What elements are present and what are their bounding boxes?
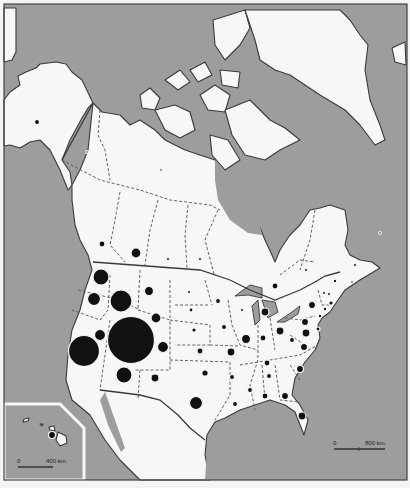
symbol-british-columbia bbox=[99, 241, 105, 247]
symbol-west-virginia bbox=[290, 338, 295, 343]
symbol-alabama bbox=[262, 393, 268, 399]
symbol-saskatchewan bbox=[167, 258, 170, 261]
symbol-labrador bbox=[354, 264, 357, 267]
symbol-minnesota bbox=[216, 299, 221, 304]
symbol-new-hampshire bbox=[328, 293, 331, 296]
symbol-washington bbox=[93, 269, 109, 285]
symbol-yukon bbox=[86, 151, 89, 154]
symbol-idaho bbox=[110, 290, 132, 312]
symbol-alaska bbox=[35, 120, 40, 125]
symbol-oklahoma bbox=[202, 370, 208, 376]
symbol-maine bbox=[333, 279, 337, 283]
symbol-virginia bbox=[302, 329, 310, 337]
symbol-wyoming bbox=[151, 313, 161, 323]
hawaii-inset: 0 400 km. bbox=[4, 404, 84, 480]
symbol-georgia bbox=[282, 393, 289, 400]
symbol-south-dakota bbox=[189, 308, 193, 312]
symbol-tennessee bbox=[267, 374, 272, 379]
symbol-kentucky bbox=[264, 360, 270, 366]
north-america-map: 0 400 km. 0 800 km. bbox=[0, 0, 410, 488]
symbol-texas bbox=[190, 397, 203, 410]
symbol-arizona bbox=[116, 367, 132, 383]
symbol-quebec bbox=[305, 269, 308, 272]
symbol-ontario bbox=[272, 283, 278, 289]
symbol-northwest-territories bbox=[160, 169, 163, 172]
inset-scale-end: 400 km. bbox=[46, 458, 68, 464]
symbol-louisiana bbox=[233, 402, 238, 407]
symbol-pennsylvania bbox=[302, 319, 309, 326]
symbol-connecticut bbox=[323, 307, 327, 311]
symbol-new-jersey bbox=[318, 314, 322, 318]
symbol-wisconsin bbox=[241, 309, 244, 312]
symbol-nevada bbox=[95, 330, 106, 341]
symbol-vermont bbox=[323, 292, 326, 295]
symbol-new-york bbox=[309, 302, 316, 309]
symbol-illinois bbox=[242, 335, 251, 344]
symbol-iowa bbox=[222, 325, 227, 330]
symbol-kansas bbox=[197, 348, 203, 354]
symbol-north-dakota bbox=[188, 291, 191, 294]
symbol-oregon bbox=[88, 293, 101, 306]
symbol-north-carolina bbox=[301, 344, 308, 351]
symbol-manitoba bbox=[199, 258, 202, 261]
symbol-indiana bbox=[260, 335, 266, 341]
symbol-new-mexico bbox=[151, 374, 159, 382]
symbol-ohio bbox=[276, 327, 284, 335]
symbol-montana bbox=[145, 287, 154, 296]
symbol-hawaii bbox=[49, 432, 56, 439]
symbol-south-carolina bbox=[297, 366, 304, 373]
symbol-colorado bbox=[158, 342, 169, 353]
main-scale-end: 800 km. bbox=[365, 440, 387, 446]
symbol-alberta bbox=[131, 248, 141, 258]
symbol-california bbox=[69, 336, 100, 367]
symbol-nova-scotia bbox=[351, 281, 354, 284]
symbol-arkansas bbox=[230, 375, 235, 380]
symbol-massachusetts bbox=[329, 301, 333, 305]
symbol-newfoundland bbox=[379, 232, 382, 235]
symbol-nebraska bbox=[192, 328, 196, 332]
symbol-florida bbox=[298, 412, 306, 420]
symbol-missouri bbox=[227, 348, 235, 356]
land-alaska-west bbox=[4, 8, 16, 62]
symbol-utah bbox=[108, 317, 155, 364]
symbol-mississippi bbox=[248, 388, 253, 393]
symbol-maryland bbox=[316, 327, 320, 331]
symbol-michigan bbox=[261, 308, 269, 316]
